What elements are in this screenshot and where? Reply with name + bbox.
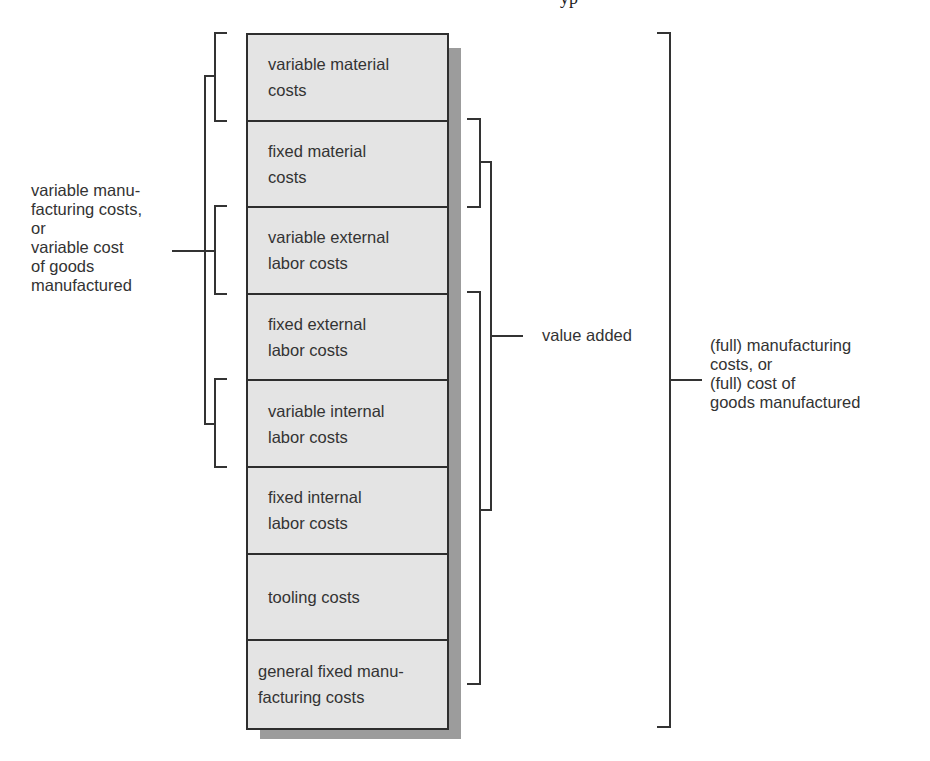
bracket-fixed-material — [467, 119, 480, 207]
cost-structure-diagram: yp variable material costs fixed materia… — [0, 0, 930, 761]
bracket-variable-material — [215, 33, 227, 121]
bracket-external-to-general — [467, 292, 480, 684]
label-value-added: value added — [542, 326, 632, 345]
bracket-full-costs — [657, 33, 670, 727]
label-variable-manufacturing-costs: variable manu- facturing costs, or varia… — [31, 181, 142, 295]
connector-value-added — [480, 162, 491, 510]
bracket-variable-internal — [215, 379, 227, 467]
label-full-manufacturing-costs: (full) manufacturing costs, or (full) co… — [710, 336, 860, 412]
bracket-variable-external — [215, 206, 227, 294]
